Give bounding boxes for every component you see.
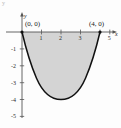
y-tick-label-minus-2: -2	[11, 63, 16, 69]
point-label-four-zero: (4, 0)	[89, 21, 104, 28]
y-tick-label-minus-1: -1	[11, 46, 16, 52]
root-marker-four	[98, 30, 101, 33]
x-tick-label-3: 3	[79, 35, 82, 41]
shaded-region	[22, 32, 100, 100]
parabola-figure: y (0, 0) (4,	[0, 0, 121, 128]
y-tick-label-minus-4: -4	[11, 97, 16, 103]
x-tick-label-1: 1	[40, 35, 43, 41]
y-axis-label: y	[24, 13, 27, 19]
x-axis-label: x	[115, 31, 118, 37]
x-tick-label-5: 5	[108, 35, 111, 41]
root-marker-origin	[20, 30, 23, 33]
x-tick-label-2: 2	[59, 35, 62, 41]
point-label-origin: (0, 0)	[25, 21, 40, 28]
y-tick-label-minus-3: -3	[11, 80, 16, 86]
y-tick-label-minus-5: -5	[11, 113, 16, 119]
